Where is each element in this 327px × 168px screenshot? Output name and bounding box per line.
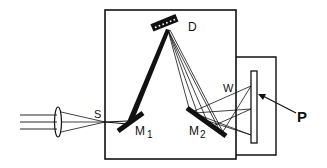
grating-d — [150, 14, 178, 32]
dispersed-rays — [168, 30, 224, 134]
collimated-beam — [127, 29, 170, 122]
label-m1: M1 — [135, 124, 153, 140]
label-plate: P — [297, 108, 307, 125]
label-window: W — [223, 82, 234, 94]
incoming-beam — [20, 115, 57, 129]
label-m2: M2 — [189, 124, 206, 140]
plate-pointer-line — [263, 96, 296, 113]
label-grating: D — [188, 20, 197, 34]
photographic-plate — [251, 71, 257, 143]
spectrograph-diagram: D S M1 M2 W P — [0, 0, 327, 168]
label-slit: S — [94, 108, 101, 120]
main-housing — [105, 10, 236, 159]
